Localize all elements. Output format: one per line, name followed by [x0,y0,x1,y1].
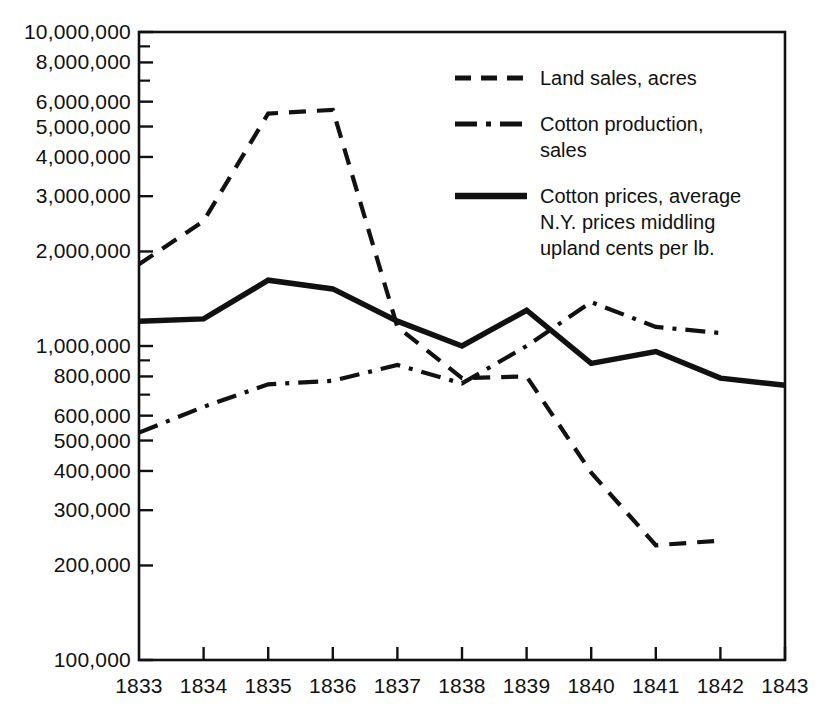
legend-label: Cotton prices, average [540,185,741,207]
x-axis-tick-label: 1842 [697,674,745,697]
y-axis-tick-label: 500,000 [54,429,131,452]
y-axis-tick-label: 200,000 [54,553,131,576]
y-axis-tick-label: 1,000,000 [36,334,131,357]
y-axis-ticks [139,32,153,660]
legend-label: Cotton production, [540,113,703,135]
chart-container: 10,000,0008,000,0006,000,0005,000,0004,0… [0,0,825,708]
x-axis-tick-label: 1833 [115,674,163,697]
line-chart: 10,000,0008,000,0006,000,0005,000,0004,0… [0,0,825,708]
x-axis-tick-label: 1840 [567,674,615,697]
y-axis-tick-label: 2,000,000 [36,239,131,262]
x-axis-tick-label: 1839 [503,674,551,697]
x-axis-tick-label: 1843 [761,674,809,697]
y-axis-tick-label: 100,000 [54,648,131,671]
x-axis-tick-labels: 1833183418351836183718381839184018411842… [115,674,809,697]
x-axis-tick-label: 1836 [309,674,357,697]
legend-label: N.Y. prices middling [540,211,715,233]
y-axis-tick-label: 8,000,000 [36,50,131,73]
y-axis-tick-label: 800,000 [54,364,131,387]
x-axis-tick-label: 1838 [438,674,486,697]
x-axis-tick-label: 1841 [632,674,680,697]
x-axis-tick-label: 1834 [180,674,228,697]
y-axis-tick-label: 3,000,000 [36,184,131,207]
y-axis-tick-label: 300,000 [54,498,131,521]
y-axis-tick-label: 4,000,000 [36,145,131,168]
legend-label: sales [540,139,587,161]
legend-label: Land sales, acres [540,67,697,89]
x-axis-tick-label: 1837 [374,674,422,697]
y-axis-tick-label: 6,000,000 [36,90,131,113]
legend-label: upland cents per lb. [540,237,715,259]
y-axis-tick-label: 10,000,000 [24,20,131,43]
y-axis-tick-label: 400,000 [54,459,131,482]
x-axis-tick-label: 1835 [244,674,292,697]
y-axis-tick-label: 600,000 [54,404,131,427]
y-axis-tick-label: 5,000,000 [36,115,131,138]
